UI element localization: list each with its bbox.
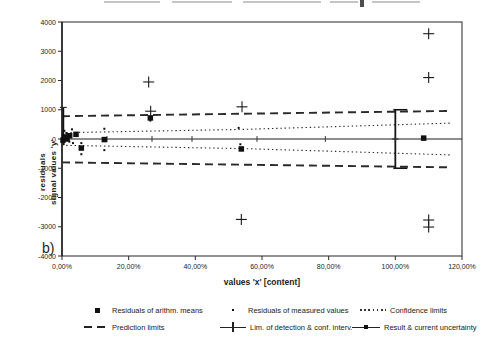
measured-value-dot — [63, 143, 65, 145]
legend-item-measured-values: Residuals of measured values — [222, 304, 348, 316]
x-tick-label: 100,00% — [382, 263, 410, 270]
y-tick-label: 3000 — [40, 48, 56, 55]
measured-value-dot — [71, 128, 73, 130]
dot-marker-icon — [222, 305, 244, 315]
cropped-title-remnant — [0, 0, 488, 8]
y-axis-title-line1: residuals — [37, 96, 48, 248]
line-with-marker-icon — [352, 322, 380, 332]
measured-value-dot — [80, 153, 82, 155]
chart-page: residuals signal values 'y' b) 400030002… — [0, 0, 488, 342]
x-axis-title: values 'x' [content] — [62, 277, 462, 287]
outlier-plus-series — [143, 28, 434, 232]
dashed-line-icon — [84, 322, 108, 332]
legend-label: Confidence limits — [390, 306, 447, 315]
mean-square-marker — [148, 115, 154, 121]
legend-label: Lim. of detection & conf. interv. — [250, 323, 352, 332]
confidence-limit-upper — [62, 123, 452, 133]
x-tick-label: 120,00% — [448, 263, 476, 270]
prediction-limit-lower — [62, 162, 452, 167]
legend-label: Prediction limits — [112, 323, 165, 332]
arith-means-series — [60, 115, 426, 152]
x-tick-label: 0,00% — [52, 263, 72, 270]
panel-label: b) — [42, 240, 54, 256]
legend-item-detection-limit: Lim. of detection & conf. interv. — [220, 321, 352, 333]
mean-square-marker — [102, 137, 108, 143]
mean-square-marker — [239, 146, 245, 152]
measured-value-dot — [103, 128, 105, 130]
legend-label: Residuals of measured values — [248, 306, 348, 315]
legend-item-confidence-limits: Confidence limits — [360, 304, 447, 316]
mean-square-marker — [67, 133, 73, 139]
measured-value-dot — [72, 142, 74, 144]
filled-square-marker-icon — [86, 305, 108, 315]
legend-item-prediction-limits: Prediction limits — [84, 321, 165, 333]
y-axis-title-line2: signal values 'y' — [48, 96, 59, 248]
mean-square-marker — [79, 145, 85, 151]
legend-label: Result & current uncertainty — [384, 323, 477, 332]
measured-value-dot — [239, 143, 241, 145]
residuals-scatter-chart: 40003000200010000-1000-2000-3000-40000,0… — [0, 0, 488, 276]
confidence-limit-lower — [62, 145, 452, 155]
x-tick-label: 20,00% — [117, 263, 141, 270]
dotted-line-icon — [360, 305, 386, 315]
mean-square-marker — [73, 132, 79, 138]
y-tick-label: 4000 — [40, 19, 56, 26]
legend-item-result-uncertainty: Result & current uncertainty — [352, 321, 477, 333]
measured-value-dot — [238, 127, 240, 129]
legend-item-arith-means: Residuals of arithm. means — [86, 304, 203, 316]
x-tick-label: 60,00% — [250, 263, 274, 270]
x-tick-label: 80,00% — [317, 263, 341, 270]
x-axis: 0,00%20,00%40,00%60,00%80,00%100,00%120,… — [52, 256, 476, 270]
measured-value-dot — [80, 142, 82, 144]
measured-value-dot — [63, 130, 65, 132]
y-axis-title: residuals signal values 'y' — [37, 96, 61, 248]
measured-value-dot — [103, 149, 105, 151]
x-tick-label: 40,00% — [183, 263, 207, 270]
legend-label: Residuals of arithm. means — [112, 306, 203, 315]
cropped-glyph-mark — [360, 0, 364, 7]
line-with-plus-icon — [220, 322, 246, 332]
mean-square-marker — [421, 135, 427, 141]
prediction-limit-upper — [62, 111, 452, 116]
y-tick-label: 2000 — [40, 77, 56, 84]
chart-legend: Residuals of arithm. means Residuals of … — [0, 298, 488, 342]
